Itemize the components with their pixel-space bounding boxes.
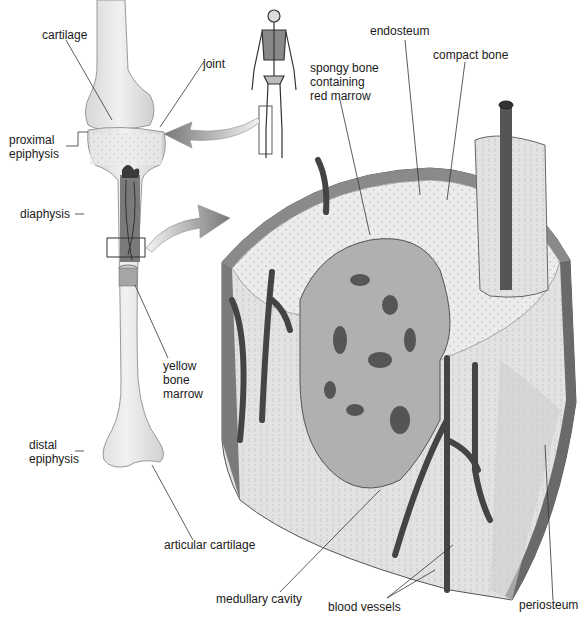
long-bone	[88, 127, 166, 467]
label-periosteum: periosteum	[519, 598, 578, 612]
femur	[85, 0, 154, 129]
label-yellow-bone-marrow: yellow bone marrow	[163, 359, 203, 401]
label-compact-bone: compact bone	[433, 48, 508, 62]
label-blood-vessels: blood vessels	[328, 600, 401, 614]
label-distal-epiphysis: distal epiphysis	[29, 438, 79, 466]
label-spongy-bone: spongy bone containing red marrow	[310, 61, 379, 103]
label-diaphysis: diaphysis	[20, 207, 70, 221]
osteon-cylinder	[475, 101, 548, 297]
arrow-to-section	[146, 205, 230, 252]
label-endosteum: endosteum	[370, 24, 429, 38]
bone-diagram	[0, 0, 586, 618]
arrow-to-joint	[164, 118, 260, 148]
label-cartilage: cartilage	[42, 28, 87, 42]
label-medullary-cavity: medullary cavity	[216, 592, 302, 606]
label-proximal-epiphysis: proximal epiphysis	[9, 133, 59, 161]
label-joint: joint	[203, 57, 225, 71]
skeleton-figure	[252, 10, 296, 158]
label-articular-cartilage: articular cartilage	[164, 538, 255, 552]
